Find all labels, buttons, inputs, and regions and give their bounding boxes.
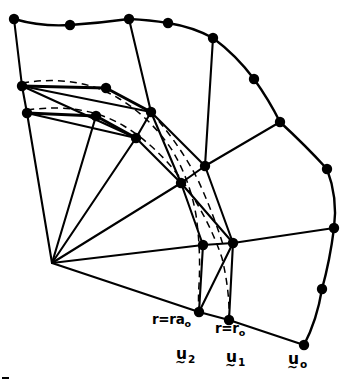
vector-u2-symbol: u ~ <box>176 347 187 363</box>
label-radius-inner-subscript: o <box>239 327 245 338</box>
scan-artifact-tick <box>2 377 9 379</box>
node-n1 <box>65 20 75 30</box>
node-n20 <box>176 178 186 188</box>
triangulated-band <box>22 86 205 183</box>
vector-u0-tilde: ~ <box>287 360 298 373</box>
node-n23 <box>228 238 238 248</box>
vector-u1-symbol: u ~ <box>226 350 237 366</box>
node-n17 <box>146 107 156 117</box>
fan-lines <box>52 116 203 263</box>
arc-r0-upper-segment <box>151 112 224 248</box>
node-n3 <box>163 18 173 28</box>
mesh-nodes <box>9 14 339 350</box>
edge-n13-n12 <box>52 263 199 312</box>
outer-boundary <box>14 19 335 345</box>
node-n22 <box>198 240 208 250</box>
label-vector-u1: u ~ 1 <box>226 348 244 366</box>
radius-arcs <box>22 81 229 320</box>
label-vector-u2: u ~ 2 <box>176 345 194 363</box>
edge-n20-n22 <box>181 183 203 245</box>
boundary-lower-right-curve <box>322 228 334 289</box>
boundary-bottom-right-curve <box>304 289 322 345</box>
vector-u2-subscript: 2 <box>188 353 195 365</box>
vector-u0-symbol: u ~ <box>288 352 299 368</box>
node-n19 <box>131 133 141 143</box>
node-n2 <box>124 14 134 24</box>
vector-u1-subscript: 1 <box>238 356 245 368</box>
node-n18 <box>91 111 101 121</box>
edge-n19-n20 <box>136 138 181 183</box>
edge-n4-n21 <box>205 38 213 166</box>
node-n21 <box>200 161 210 171</box>
edge-n17-n21 <box>151 112 205 166</box>
left-boundary <box>14 19 52 263</box>
node-n0 <box>9 14 19 24</box>
node-n10 <box>299 340 309 350</box>
node-n16 <box>101 83 111 93</box>
label-radius-outer-subscript: o <box>185 318 191 329</box>
node-n15 <box>22 108 32 118</box>
boundary-right-curve <box>280 122 327 169</box>
edge-n13-n22 <box>52 245 203 263</box>
mesh-diagram <box>0 0 347 385</box>
label-radius-inner: r=ro <box>215 322 245 336</box>
node-n6 <box>275 117 285 127</box>
vector-u1-tilde: ~ <box>225 358 236 371</box>
label-radius-outer: r=rao <box>152 313 191 327</box>
edge-n18-n19 <box>96 116 136 138</box>
boundary-upper-right-curve <box>213 38 280 122</box>
edge-n8-n23 <box>233 228 334 243</box>
edge-n15-n13 <box>27 113 52 263</box>
boundary-far-right-curve <box>327 169 335 228</box>
edge-n6-n21 <box>205 122 280 166</box>
figure-root: r=rao r=ro u ~ 2 u ~ 1 u ~ o <box>0 0 347 385</box>
label-radius-inner-text: r=r <box>215 320 239 336</box>
edge-n13-n19 <box>52 138 136 263</box>
label-vector-u0: u ~ o <box>288 350 306 368</box>
node-n8 <box>329 223 339 233</box>
bottom-boundary <box>52 263 304 345</box>
boundary-top-curve <box>14 19 213 38</box>
edge-n20-n23 <box>181 183 233 243</box>
vector-u2-tilde: ~ <box>175 355 186 368</box>
node-n9 <box>317 284 327 294</box>
node-n12 <box>194 307 204 317</box>
node-n4 <box>208 33 218 43</box>
edge-n0-n14 <box>14 19 22 86</box>
node-n5 <box>249 74 259 84</box>
vector-u0-subscript: o <box>300 358 307 370</box>
edge-n22-n12 <box>199 245 203 312</box>
node-n14 <box>17 81 27 91</box>
label-radius-outer-text: r=ra <box>152 311 185 327</box>
edge-n2-n17 <box>129 19 151 112</box>
node-n7 <box>322 164 332 174</box>
edge-n23-n12 <box>199 243 233 312</box>
